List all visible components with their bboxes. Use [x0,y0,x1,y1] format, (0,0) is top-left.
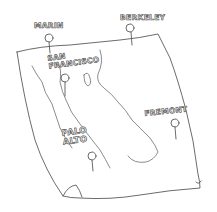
label-marin: MARIN [34,22,64,30]
label-berkeley: BERKELEY [120,14,165,22]
pin-berkeley [126,24,134,45]
pin-fremont [171,119,179,139]
pin-san-francisco [61,74,69,96]
pin-palo-alto [88,152,96,171]
paper-curl [63,185,82,197]
bay-shore-east [98,50,158,162]
pin-marin [45,34,53,53]
island [84,73,91,86]
bay-area-map: MARIN BERKELEY SAN FRANCISCO PALO ALTO F… [0,0,217,212]
paper-outline [17,34,200,199]
label-palo-alto: PALO ALTO [61,125,89,146]
